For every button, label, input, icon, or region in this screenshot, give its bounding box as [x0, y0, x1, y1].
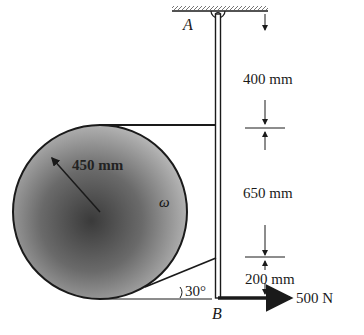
force-label: 500 N: [296, 291, 333, 306]
dimension-200-label: 200 mm: [245, 272, 295, 287]
angle-arc-icon: [180, 287, 182, 298]
dimension-650-label: 650 mm: [243, 186, 293, 201]
point-b-label: B: [212, 306, 222, 322]
dimension-400-label: 400 mm: [243, 72, 293, 87]
mechanics-diagram: [0, 0, 364, 335]
rod-ab: [216, 14, 221, 298]
dimension-lines: [245, 14, 285, 294]
ceiling-support: [172, 6, 268, 11]
point-a-label: A: [183, 17, 193, 33]
angle-label: 30°: [185, 284, 206, 299]
angular-velocity-label: ω: [159, 195, 170, 210]
radius-label: 450 mm: [72, 158, 123, 173]
